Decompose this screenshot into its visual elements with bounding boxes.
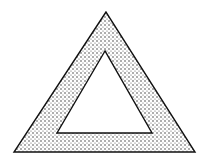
figure-canvas xyxy=(0,0,208,163)
triangle-ring-figure xyxy=(0,0,208,163)
